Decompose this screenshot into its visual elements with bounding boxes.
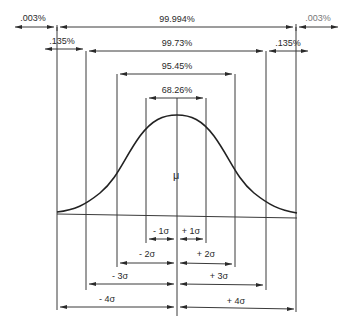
tail-outer-right: .003% [296, 13, 338, 31]
mean-label: μ [173, 169, 179, 181]
plus-3-sigma-label: + 3σ [210, 271, 229, 281]
interval-99-994: 99.994% [60, 14, 293, 29]
plus-2-sigma-label: + 2σ [197, 249, 216, 259]
interval-99-73-label: 99.73% [162, 38, 193, 48]
tail-inner-right: .135% [269, 38, 308, 53]
tail-outer-left: .003% [15, 13, 57, 31]
minus-4-sigma-label: - 4σ [99, 294, 116, 304]
interval-95-45: 95.45% [120, 61, 232, 76]
interval-68-26-label: 68.26% [162, 85, 193, 95]
interval-68-26: 68.26% [149, 85, 203, 100]
tail-inner-left-label: .135% [49, 36, 75, 46]
tail-inner-right-label: .135% [275, 38, 301, 48]
interval-95-45-label: 95.45% [162, 61, 193, 71]
interval-99-73: 99.73% [89, 38, 263, 53]
tail-outer-right-label: .003% [305, 13, 331, 23]
tail-inner-left: .135% [45, 36, 83, 51]
normal-distribution-diagram: 99.994% .003% .003% 99.73% .135% .135% [0, 0, 348, 328]
plus-1-sigma-label: + 1σ [182, 226, 201, 236]
minus-1-sigma-label: - 1σ [153, 226, 170, 236]
minus-2-sigma-label: - 2σ [139, 249, 156, 259]
minus-3-sigma-label: - 3σ [112, 271, 129, 281]
interval-99-994-label: 99.994% [159, 14, 195, 24]
sigma-3-arrows: - 3σ + 3σ [89, 271, 263, 287]
plus-4-sigma-label: + 4σ [227, 296, 246, 306]
sigma-1-arrows: - 1σ + 1σ [149, 226, 203, 241]
sigma-2-arrows: - 2σ + 2σ [120, 249, 232, 266]
tail-outer-left-label: .003% [20, 13, 46, 23]
